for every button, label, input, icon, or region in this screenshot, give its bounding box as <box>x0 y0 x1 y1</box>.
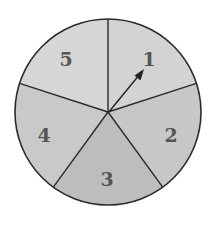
sector-label-2: 2 <box>164 124 177 146</box>
sector-label-1: 1 <box>142 48 155 70</box>
sector-label-3: 3 <box>100 168 113 190</box>
spinner-diagram: 1 2 3 4 5 <box>0 0 215 229</box>
sector-label-5: 5 <box>59 48 72 70</box>
sector-label-4: 4 <box>37 124 50 146</box>
